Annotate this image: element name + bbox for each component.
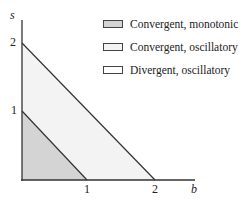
legend-label: Convergent, oscillatory (130, 41, 238, 53)
legend-item-convergent-monotonic: Convergent, monotonic (103, 17, 238, 31)
legend-swatch (103, 43, 123, 51)
y-tick-2: 2 (10, 35, 16, 50)
y-axis-label: s (10, 8, 15, 23)
x-axis-label: b (191, 182, 197, 197)
legend-swatch (103, 66, 123, 74)
y-tick-1: 1 (11, 103, 17, 118)
legend-swatch (103, 20, 123, 28)
legend-item-divergent-oscillatory: Divergent, oscillatory (103, 63, 230, 77)
x-tick-1: 1 (84, 182, 90, 197)
legend-item-convergent-oscillatory: Convergent, oscillatory (103, 40, 238, 54)
legend-label: Convergent, monotonic (130, 18, 238, 30)
x-tick-2: 2 (152, 182, 158, 197)
legend-label: Divergent, oscillatory (130, 64, 230, 76)
